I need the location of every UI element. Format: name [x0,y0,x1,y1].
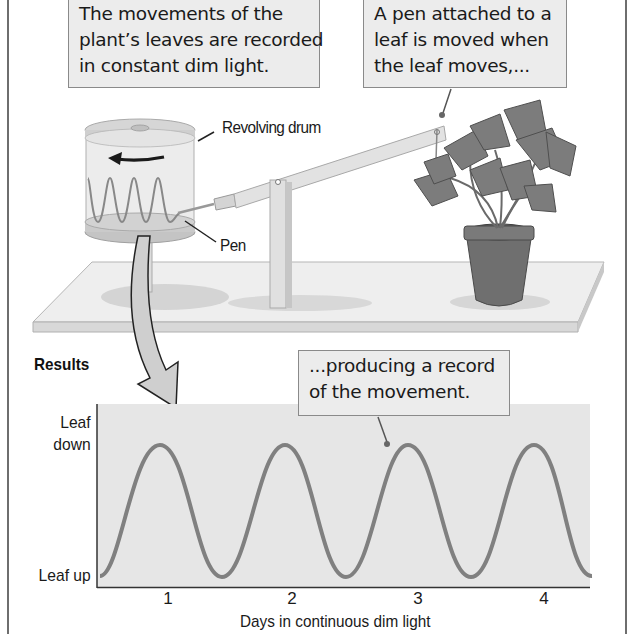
callout-line: leaf is moved when [374,27,556,53]
callout-connector-top [439,89,451,118]
callout-pen-attached: A pen attached to a leaf is moved when t… [363,0,567,88]
y-label-line: Leaf up [39,565,91,587]
callout-line: ...producing a record [309,353,499,379]
y-label-line: down [54,434,91,456]
callout-line: in constant dim light. [79,53,309,79]
revolving-drum [85,119,195,243]
pen-label: Pen [220,236,246,256]
y-label-leaf-down: Leaf down [54,412,91,456]
drum-label: Revolving drum [222,118,321,138]
x-tick-4: 4 [534,589,554,609]
x-tick-2: 2 [282,589,302,609]
x-axis-label: Days in continuous dim light [240,612,431,632]
results-title: Results [34,355,89,375]
x-tick-3: 3 [408,589,428,609]
callout-recording-conditions: The movements of the plant’s leaves are … [68,0,320,88]
y-label-leaf-up: Leaf up [39,565,91,587]
plot-area [97,404,590,587]
callout-line: A pen attached to a [374,1,556,27]
y-label-line: Leaf [54,412,91,434]
illustration-graphics [0,0,632,634]
results-chart [97,404,592,588]
fulcrum-post [270,180,292,309]
x-tick-1: 1 [158,589,178,609]
callout-line: of the movement. [309,379,499,405]
callout-record-produced: ...producing a record of the movement. [298,350,510,416]
drum-label-connector [198,132,214,141]
callout-line: plant’s leaves are recorded [79,27,309,53]
callout-line: the leaf moves,... [374,53,556,79]
callout-line: The movements of the [79,1,309,27]
pen-lever [178,126,446,213]
